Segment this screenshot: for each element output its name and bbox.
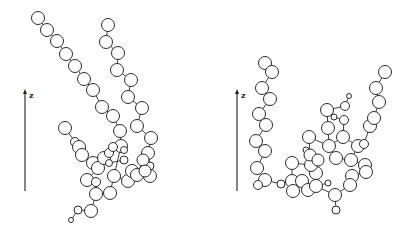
bead [131, 120, 144, 133]
z-axis-right: z [235, 89, 246, 191]
bead [60, 48, 73, 61]
bead [329, 189, 342, 202]
bead [139, 165, 151, 177]
bead [145, 132, 158, 145]
bead [360, 140, 369, 149]
bead [259, 145, 272, 158]
bead [102, 19, 115, 32]
bead [323, 140, 336, 153]
bead [345, 154, 358, 167]
bead [368, 112, 381, 125]
bead [256, 82, 269, 95]
bead [254, 181, 263, 190]
bead [90, 188, 103, 201]
bead [137, 154, 149, 166]
bead [332, 206, 340, 214]
bead [85, 205, 98, 218]
bead [111, 64, 124, 77]
bead [277, 180, 285, 188]
bead [120, 156, 128, 164]
z-axis-arrowhead-icon [23, 89, 27, 94]
bead [360, 166, 373, 179]
bead [370, 82, 383, 95]
bead [51, 35, 64, 48]
bead [344, 179, 357, 192]
bead [322, 122, 335, 135]
bead [104, 187, 117, 200]
bead [373, 96, 386, 109]
bead [100, 36, 113, 49]
bead [266, 66, 279, 79]
left-conformation-panel: z [23, 12, 158, 223]
bead [59, 122, 72, 135]
bead [312, 154, 324, 166]
z-axis-label: z [241, 90, 246, 100]
bead [78, 73, 91, 86]
bead [41, 24, 54, 37]
bead [251, 162, 264, 175]
beads-left [32, 12, 158, 223]
bead [76, 149, 89, 162]
bead [264, 93, 277, 106]
z-axis-arrowhead-icon [235, 89, 239, 94]
bead [122, 91, 135, 104]
bead [87, 84, 100, 97]
bead [96, 101, 109, 114]
right-conformation-panel: z [235, 57, 392, 215]
bead [347, 94, 352, 99]
beads-right [250, 57, 392, 215]
bead [330, 152, 343, 165]
bead [341, 102, 350, 111]
bead [69, 60, 82, 73]
bead [303, 131, 316, 144]
bead [106, 160, 113, 167]
bead [340, 116, 349, 125]
bead [114, 125, 127, 138]
bead [107, 110, 120, 123]
bead [286, 157, 299, 170]
bead [125, 74, 138, 87]
bead [287, 185, 300, 198]
bead [331, 114, 337, 120]
bead [109, 143, 118, 152]
bead [310, 180, 323, 193]
bead [92, 178, 101, 187]
bead [74, 206, 82, 214]
bead [112, 47, 125, 60]
bead [260, 119, 273, 132]
bead [325, 180, 331, 186]
bead [32, 12, 45, 25]
bead [108, 170, 121, 183]
bead [69, 218, 74, 223]
bead [337, 131, 350, 144]
bead [136, 102, 149, 115]
bead [379, 66, 392, 79]
bead [250, 135, 263, 148]
z-axis-label: z [29, 90, 34, 100]
bead [121, 147, 128, 154]
molecular-conformation-figure: z z [0, 0, 411, 235]
z-axis-left: z [23, 89, 34, 191]
